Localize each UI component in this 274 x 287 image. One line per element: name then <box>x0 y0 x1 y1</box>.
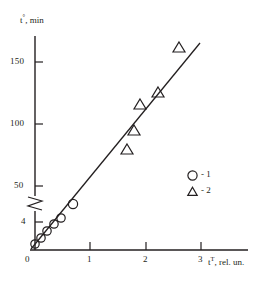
y-axis-title: t°, min <box>20 14 44 25</box>
figure-container: t°, min tT, rel. un. 150 100 50 4 0 1 2 … <box>0 0 274 287</box>
data-point-circle <box>57 214 65 222</box>
y-tick-label-150: 150 <box>10 57 24 66</box>
data-point-circle <box>37 234 45 242</box>
y-tick-label-100: 100 <box>10 119 24 128</box>
y-axis-break-icon <box>28 197 42 210</box>
data-point-triangle <box>134 99 146 109</box>
x-tick-label-1: 1 <box>87 255 92 264</box>
data-point-triangle <box>121 144 133 154</box>
series-2-markers <box>121 42 185 154</box>
y-tick-label-50: 50 <box>14 181 23 190</box>
x-tick-label-2: 2 <box>143 255 148 264</box>
series-1-markers <box>31 199 78 248</box>
y-tick-label-4: 4 <box>21 217 26 226</box>
legend: - 1 - 2 <box>186 166 211 198</box>
plot-canvas <box>0 0 274 287</box>
legend-label-2: - 2 <box>201 185 211 195</box>
legend-item-1: - 1 <box>186 166 211 182</box>
legend-label-1: - 1 <box>201 169 211 179</box>
x-tick-label-0: 0 <box>25 255 30 264</box>
triangle-marker-icon <box>186 184 199 197</box>
x-tick-label-3: 3 <box>198 255 203 264</box>
data-point-circle <box>43 227 51 235</box>
circle-marker-icon <box>186 168 199 181</box>
x-axis-title: tT, rel. un. <box>208 256 244 267</box>
data-point-circle <box>68 199 77 208</box>
data-point-triangle <box>128 125 140 135</box>
data-point-triangle <box>173 42 185 52</box>
legend-item-2: - 2 <box>186 182 211 198</box>
